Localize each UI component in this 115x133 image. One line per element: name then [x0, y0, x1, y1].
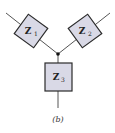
z2-subscript: 2 [88, 30, 92, 37]
wye-network-diagram: Z 1 Z 2 Z 3 (b) [0, 0, 115, 133]
z1-subscript: 1 [34, 30, 38, 37]
impedance-z1: Z 1 [14, 14, 48, 48]
impedance-z2: Z 2 [68, 14, 102, 48]
z2-label: Z [79, 26, 86, 36]
figure-caption: (b) [52, 115, 63, 124]
z3-subscript: 3 [61, 76, 65, 83]
z1-label: Z [25, 26, 32, 36]
z3-label: Z [53, 72, 60, 82]
impedance-z3: Z 3 [45, 63, 72, 91]
center-node [56, 52, 60, 56]
